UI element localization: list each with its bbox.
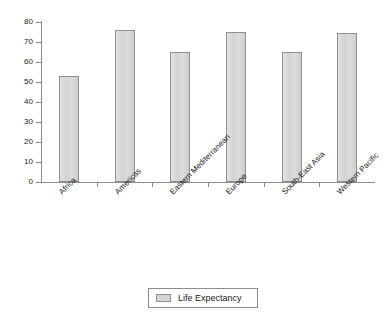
bar xyxy=(115,30,135,182)
bar xyxy=(59,76,79,182)
bar xyxy=(170,52,190,182)
x-tick-mark xyxy=(152,182,153,187)
bar xyxy=(282,52,302,182)
legend-entry: Life Expectancy xyxy=(156,293,242,303)
y-tick-label: 70 xyxy=(3,38,33,46)
life-expectancy-swatch xyxy=(156,294,171,302)
bar-chart: 80706050403020100 AfricaAmericasEastern … xyxy=(0,0,386,319)
y-tick-label: 30 xyxy=(3,118,33,126)
y-tick-label: 80 xyxy=(3,18,33,26)
y-tick-label: 0 xyxy=(3,178,33,186)
y-tick-label: 10 xyxy=(3,158,33,166)
y-tick-mark xyxy=(36,182,41,183)
y-tick-label: 20 xyxy=(3,138,33,146)
y-tick-label: 50 xyxy=(3,78,33,86)
bar xyxy=(337,33,357,182)
chart-legend: Life Expectancy xyxy=(148,288,258,308)
x-tick-mark xyxy=(208,182,209,187)
bar xyxy=(226,32,246,182)
x-tick-mark xyxy=(319,182,320,187)
y-tick-label: 40 xyxy=(3,98,33,106)
x-tick-mark xyxy=(97,182,98,187)
x-tick-mark xyxy=(264,182,265,187)
y-tick-label: 60 xyxy=(3,58,33,66)
legend-label: Life Expectancy xyxy=(178,293,242,303)
